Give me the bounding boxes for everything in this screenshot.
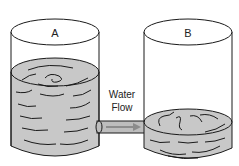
- container-a: A: [11, 19, 99, 156]
- container-b-label: B: [184, 27, 191, 39]
- diagram-canvas: A Water Flow B: [0, 0, 239, 166]
- flow-label-line2: Flow: [111, 102, 133, 113]
- container-b: B: [144, 19, 232, 159]
- flow-label-line1: Water: [109, 89, 136, 100]
- container-a-label: A: [51, 27, 59, 39]
- pipe: [96, 121, 147, 133]
